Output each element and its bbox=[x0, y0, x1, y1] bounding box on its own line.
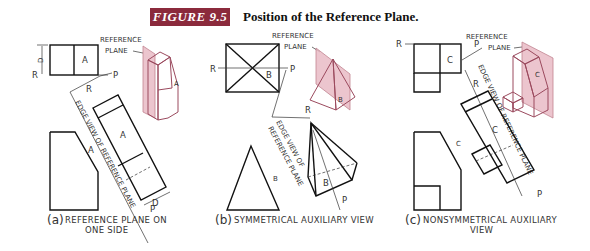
panel-b-aux-view: B P bbox=[308, 123, 357, 210]
panel-a-side-view: A bbox=[50, 132, 98, 210]
depth-label: D bbox=[37, 58, 45, 63]
caption-b-line1: SYMMETRICAL AUXILIARY VIEW bbox=[234, 215, 374, 225]
plane-label: PLANE bbox=[488, 44, 511, 52]
surface-aux-label: A bbox=[120, 130, 126, 140]
panel-a-pictorial: A bbox=[143, 46, 179, 120]
r-aux-label: R bbox=[305, 105, 311, 115]
edge-view-label: EDGE VIEW OF REFERENCE PLANE bbox=[73, 99, 137, 209]
p-label: P bbox=[113, 70, 118, 80]
caption-a-line1: REFERENCE PLANE ON bbox=[65, 215, 167, 225]
plane-label: PLANE bbox=[284, 43, 307, 51]
caption-c-line1: NONSYMMETRICAL AUXILIARY bbox=[423, 215, 558, 225]
surface-side-label: C bbox=[456, 140, 461, 148]
r-aux-label: R bbox=[473, 79, 479, 89]
surface-aux-label: B bbox=[323, 178, 329, 188]
surface-side-label: A bbox=[88, 145, 94, 155]
caption-a-line2: ONE SIDE bbox=[85, 225, 128, 235]
panel-b: R P B REFERENCE PLANE B R EDGE VIEW OF R… bbox=[210, 32, 374, 227]
surface-label: C bbox=[447, 55, 453, 65]
surface-label: A bbox=[82, 55, 88, 65]
panel-b-side-view: B bbox=[227, 146, 279, 210]
panel-b-pictorial: B bbox=[310, 48, 355, 110]
panel-c-side-view: C bbox=[414, 132, 461, 210]
r-aux-label: R bbox=[86, 84, 92, 94]
p-label: P bbox=[290, 64, 295, 74]
caption-letter-c: (c) bbox=[405, 213, 421, 227]
surface-label: B bbox=[266, 70, 272, 80]
surface-iso-label: A bbox=[174, 80, 179, 88]
panel-c: C R P REFERENCE PLANE C R EDGE VIEW OF R… bbox=[396, 33, 558, 235]
plane-label: PLANE bbox=[105, 47, 128, 55]
caption-letter-a: (a) bbox=[47, 213, 64, 227]
panel-c-top-view: C R P bbox=[396, 39, 479, 92]
p-aux-label: P bbox=[150, 204, 155, 214]
p-aux-label: P bbox=[342, 195, 347, 205]
reference-label: REFERENCE bbox=[272, 32, 314, 40]
caption-c-line2: VIEW bbox=[470, 225, 494, 235]
r-label: R bbox=[210, 64, 216, 74]
surface-aux-label: C bbox=[492, 125, 498, 135]
surface-iso-label: C bbox=[535, 71, 540, 79]
r-label: R bbox=[32, 70, 38, 80]
panel-a: A D R P REFERENCE PLANE A R EDGE VIEW OF… bbox=[32, 36, 179, 243]
reference-label: REFERENCE bbox=[466, 33, 508, 41]
p-aux-label: P bbox=[537, 189, 542, 199]
panel-b-top-view: R P B bbox=[210, 44, 295, 92]
caption-letter-b: (b) bbox=[215, 213, 232, 227]
reference-label: REFERENCE bbox=[100, 36, 142, 44]
surface-iso-label: B bbox=[338, 96, 343, 104]
drawing-canvas: A D R P REFERENCE PLANE A R EDGE VIEW OF… bbox=[0, 0, 590, 251]
surface-side-label: B bbox=[273, 175, 278, 183]
r-label: R bbox=[396, 39, 402, 49]
panel-c-pictorial: C bbox=[503, 42, 553, 118]
